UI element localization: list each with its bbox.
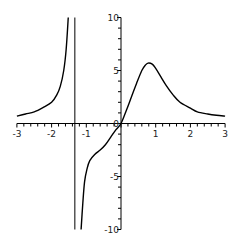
x-tick-label: -2 <box>47 129 56 139</box>
curve-right-branch <box>81 63 225 229</box>
y-tick-label: 10 <box>108 13 120 23</box>
y-tick-label: 5 <box>113 66 119 76</box>
y-tick-label: -10 <box>104 225 119 235</box>
x-tick-label: -1 <box>82 129 91 139</box>
x-tick-label: -3 <box>12 129 21 139</box>
function-plot: -3-2-1123-10-50510 <box>0 0 238 247</box>
y-tick-label: -5 <box>110 172 119 182</box>
x-tick-label: 3 <box>222 129 228 139</box>
x-tick-label: 1 <box>153 129 159 139</box>
curve-left-branch <box>17 18 68 117</box>
x-tick-label: 2 <box>188 129 194 139</box>
